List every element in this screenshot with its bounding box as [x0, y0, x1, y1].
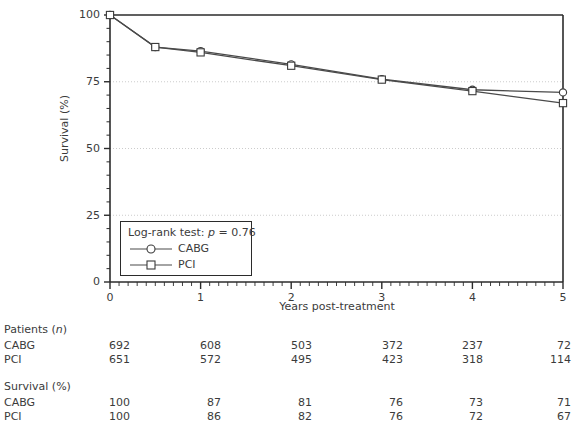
table-cell: 100	[84, 410, 130, 423]
data-point	[559, 89, 566, 96]
ytick-label-25: 25	[60, 209, 100, 222]
plot-canvas	[0, 0, 582, 318]
patients-title-text: Patients (	[4, 323, 56, 336]
data-point	[288, 62, 295, 69]
ytick-label-100: 100	[60, 8, 100, 21]
data-point	[106, 11, 113, 18]
data-series-layer	[106, 11, 566, 106]
chart-legend: Log-rank test: p = 0.76 CABG PCI	[120, 221, 252, 276]
legend-label-cabg: CABG	[178, 242, 209, 255]
table-cell: 503	[266, 339, 312, 352]
table-cell: 71	[525, 396, 571, 409]
table-cell: 72	[437, 410, 483, 423]
survival-figure: 100 75 50 25 0 0 1 2 3 4 5 Survival (%) …	[0, 0, 582, 437]
table-cell: 67	[525, 410, 571, 423]
data-point	[152, 43, 159, 50]
at-risk-tables: Patients (n) CABG 692 608 503 372 237 72…	[0, 318, 582, 437]
series-cabg	[106, 11, 566, 96]
table-cell: 495	[266, 353, 312, 366]
patients-title-italic: n	[56, 323, 63, 336]
table-cell: 100	[84, 396, 130, 409]
table-cell: 692	[84, 339, 130, 352]
log-rank-pvalue: Log-rank test: p = 0.76	[128, 226, 256, 239]
table-cell: 114	[525, 353, 571, 366]
legend-marker-square-icon	[128, 257, 174, 273]
pvalue-prefix: Log-rank test:	[128, 226, 208, 239]
gridlines	[110, 82, 563, 216]
pvalue-suffix: = 0.76	[215, 226, 256, 239]
survival-chart: 100 75 50 25 0 0 1 2 3 4 5 Survival (%) …	[0, 0, 582, 318]
survival-row-label-cabg: CABG	[4, 396, 35, 409]
table-cell: 372	[357, 339, 403, 352]
table-cell: 82	[266, 410, 312, 423]
series-pci	[106, 11, 566, 106]
table-cell: 423	[357, 353, 403, 366]
table-cell: 76	[357, 396, 403, 409]
patients-row-label-pci: PCI	[4, 353, 22, 366]
table-cell: 73	[437, 396, 483, 409]
pvalue-symbol: p	[208, 226, 215, 239]
y-axis-title: Survival (%)	[58, 59, 71, 199]
data-point	[559, 100, 566, 107]
table-cell: 81	[266, 396, 312, 409]
survival-title-text: Survival (%)	[4, 380, 71, 393]
legend-label-pci: PCI	[178, 258, 196, 271]
legend-item-cabg: CABG	[128, 241, 248, 257]
table-cell: 318	[437, 353, 483, 366]
table-cell: 608	[175, 339, 221, 352]
legend-item-pci: PCI	[128, 257, 248, 273]
patients-row-label-cabg: CABG	[4, 339, 35, 352]
table-cell: 651	[84, 353, 130, 366]
patients-title-suffix: )	[63, 323, 67, 336]
table-cell: 86	[175, 410, 221, 423]
survival-table-title: Survival (%)	[4, 380, 71, 393]
table-cell: 76	[357, 410, 403, 423]
ytick-label-0: 0	[60, 275, 100, 288]
x-axis-title: Years post-treatment	[110, 300, 564, 313]
data-point	[378, 76, 385, 83]
table-cell: 87	[175, 396, 221, 409]
table-cell: 72	[525, 339, 571, 352]
survival-row-label-pci: PCI	[4, 410, 22, 423]
table-cell: 237	[437, 339, 483, 352]
data-point	[197, 49, 204, 56]
data-point	[469, 88, 476, 95]
legend-marker-circle-icon	[128, 241, 174, 257]
patients-table-title: Patients (n)	[4, 323, 67, 336]
table-cell: 572	[175, 353, 221, 366]
